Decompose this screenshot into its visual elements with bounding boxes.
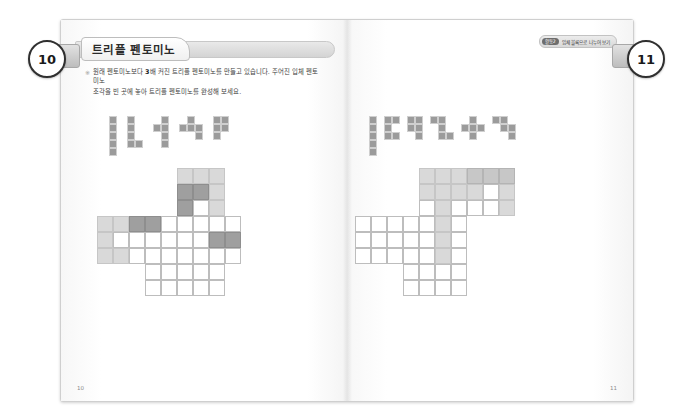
grid-cell[interactable] (387, 216, 403, 232)
grid-cell[interactable] (193, 168, 209, 184)
grid-cell[interactable] (113, 248, 129, 264)
grid-cell[interactable] (161, 216, 177, 232)
grid-cell[interactable] (387, 248, 403, 264)
grid-cell[interactable] (499, 184, 515, 200)
grid-cell[interactable] (193, 280, 209, 296)
grid-cell[interactable] (177, 248, 193, 264)
grid-cell[interactable] (435, 200, 451, 216)
grid-cell[interactable] (419, 264, 435, 280)
grid-cell[interactable] (145, 264, 161, 280)
grid-cell[interactable] (499, 200, 515, 216)
grid-cell[interactable] (193, 184, 209, 200)
grid-cell[interactable] (435, 184, 451, 200)
grid-cell[interactable] (355, 248, 371, 264)
grid-cell[interactable] (225, 216, 241, 232)
grid-cell[interactable] (177, 232, 193, 248)
left-puzzle-grid[interactable] (81, 168, 241, 312)
grid-cell[interactable] (387, 232, 403, 248)
pentomino-piece[interactable] (153, 116, 169, 148)
grid-cell[interactable] (435, 232, 451, 248)
grid-cell[interactable] (97, 248, 113, 264)
grid-cell[interactable] (113, 232, 129, 248)
grid-cell[interactable] (113, 216, 129, 232)
grid-cell[interactable] (97, 232, 113, 248)
grid-cell[interactable] (435, 216, 451, 232)
grid-cell[interactable] (97, 216, 113, 232)
grid-cell[interactable] (483, 200, 499, 216)
grid-cell[interactable] (177, 280, 193, 296)
grid-cell[interactable] (419, 280, 435, 296)
grid-cell[interactable] (403, 264, 419, 280)
grid-cell[interactable] (161, 280, 177, 296)
grid-cell[interactable] (451, 216, 467, 232)
pentomino-piece[interactable] (179, 116, 203, 140)
grid-cell[interactable] (435, 264, 451, 280)
grid-cell[interactable] (419, 168, 435, 184)
grid-cell[interactable] (467, 168, 483, 184)
grid-cell[interactable] (355, 216, 371, 232)
grid-cell[interactable] (193, 248, 209, 264)
grid-cell[interactable] (419, 216, 435, 232)
grid-cell[interactable] (177, 264, 193, 280)
grid-cell[interactable] (161, 232, 177, 248)
pentomino-piece[interactable] (127, 116, 143, 148)
grid-cell[interactable] (129, 248, 145, 264)
grid-cell[interactable] (419, 184, 435, 200)
pentomino-piece[interactable] (430, 116, 454, 140)
grid-cell[interactable] (419, 248, 435, 264)
grid-cell[interactable] (419, 232, 435, 248)
grid-cell[interactable] (483, 184, 499, 200)
grid-cell[interactable] (145, 232, 161, 248)
grid-cell[interactable] (161, 264, 177, 280)
grid-cell[interactable] (177, 216, 193, 232)
grid-cell[interactable] (145, 248, 161, 264)
grid-cell[interactable] (403, 216, 419, 232)
grid-cell[interactable] (209, 232, 225, 248)
grid-cell[interactable] (209, 280, 225, 296)
grid-cell[interactable] (371, 248, 387, 264)
grid-cell[interactable] (467, 200, 483, 216)
grid-cell[interactable] (193, 200, 209, 216)
grid-cell[interactable] (419, 200, 435, 216)
pentomino-piece[interactable] (109, 116, 117, 156)
grid-cell[interactable] (177, 168, 193, 184)
pentomino-piece[interactable] (369, 116, 377, 156)
grid-cell[interactable] (145, 280, 161, 296)
grid-cell[interactable] (451, 248, 467, 264)
grid-cell[interactable] (161, 248, 177, 264)
grid-cell[interactable] (193, 232, 209, 248)
grid-cell[interactable] (225, 232, 241, 248)
grid-cell[interactable] (177, 184, 193, 200)
grid-cell[interactable] (209, 216, 225, 232)
grid-cell[interactable] (483, 168, 499, 184)
right-puzzle-grid[interactable] (355, 168, 515, 312)
grid-cell[interactable] (129, 232, 145, 248)
grid-cell[interactable] (193, 264, 209, 280)
grid-cell[interactable] (451, 280, 467, 296)
grid-cell[interactable] (403, 280, 419, 296)
grid-cell[interactable] (435, 248, 451, 264)
grid-cell[interactable] (467, 184, 483, 200)
grid-cell[interactable] (209, 264, 225, 280)
grid-cell[interactable] (435, 280, 451, 296)
pentomino-piece[interactable] (384, 116, 400, 140)
grid-cell[interactable] (355, 232, 371, 248)
grid-cell[interactable] (209, 184, 225, 200)
grid-cell[interactable] (129, 216, 145, 232)
grid-cell[interactable] (193, 216, 209, 232)
grid-cell[interactable] (209, 168, 225, 184)
grid-cell[interactable] (225, 248, 241, 264)
pentomino-piece[interactable] (407, 116, 423, 140)
grid-cell[interactable] (209, 200, 225, 216)
grid-cell[interactable] (451, 168, 467, 184)
grid-cell[interactable] (209, 248, 225, 264)
grid-cell[interactable] (451, 232, 467, 248)
pentomino-piece[interactable] (492, 116, 516, 140)
grid-cell[interactable] (371, 232, 387, 248)
grid-cell[interactable] (403, 248, 419, 264)
grid-cell[interactable] (177, 200, 193, 216)
pentomino-piece[interactable] (461, 116, 485, 140)
grid-cell[interactable] (499, 168, 515, 184)
grid-cell[interactable] (451, 184, 467, 200)
grid-cell[interactable] (435, 168, 451, 184)
